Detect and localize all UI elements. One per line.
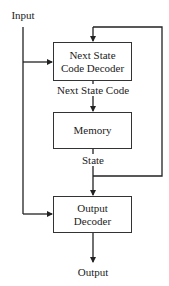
block-label-line1: Next State (69, 49, 115, 62)
output-label: Output (72, 266, 114, 278)
next-state-code-label: Next State Code (49, 84, 137, 96)
block-label-line1: Output (77, 202, 108, 215)
input-label: Input (6, 9, 40, 21)
block-label-line2: Code Decoder (61, 62, 124, 75)
block-label: Memory (74, 124, 112, 137)
memory-block: Memory (53, 112, 132, 149)
output-decoder-block: Output Decoder (53, 196, 132, 233)
block-label-line2: Decoder (74, 215, 111, 228)
next-state-code-decoder-block: Next State Code Decoder (53, 42, 132, 81)
state-label: State (76, 154, 110, 166)
